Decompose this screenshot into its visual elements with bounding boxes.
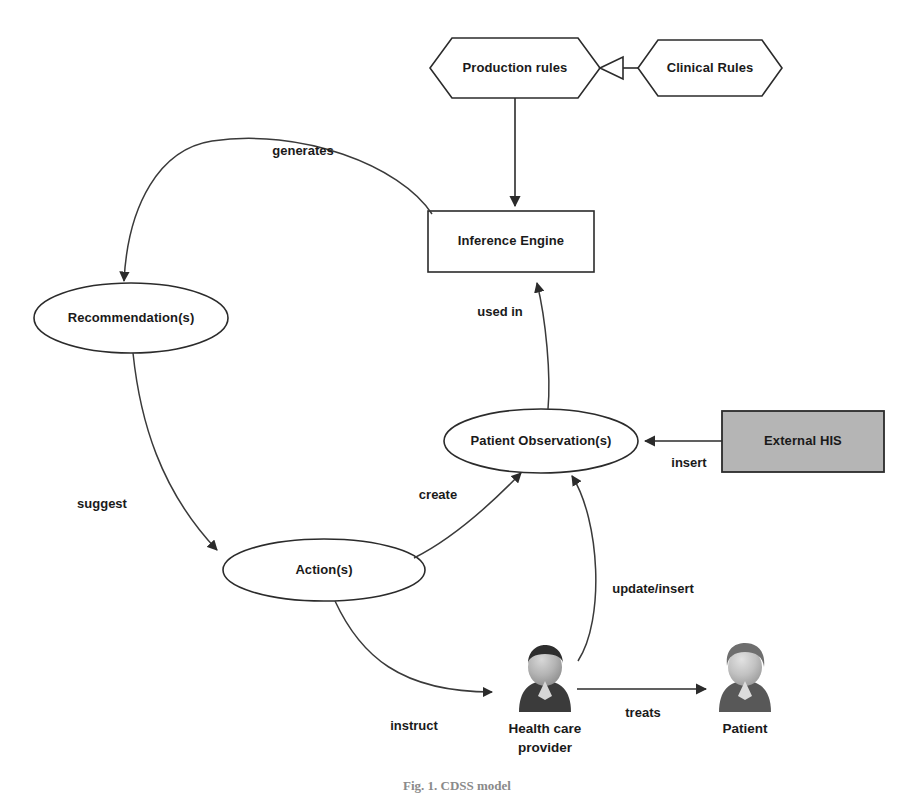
person-icon bbox=[719, 643, 771, 712]
edge-create: create bbox=[414, 473, 521, 558]
node-actions[interactable]: Action(s) bbox=[223, 539, 425, 601]
production-rules-label: Production rules bbox=[463, 60, 568, 75]
figure-caption: Fig. 1. CDSS model bbox=[403, 778, 511, 793]
generates-label: generates bbox=[272, 143, 333, 158]
update-insert-arrow bbox=[572, 476, 596, 661]
actions-label: Action(s) bbox=[295, 562, 352, 577]
clinical-rules-label: Clinical Rules bbox=[667, 60, 754, 75]
generalization-hollow-triangle-icon bbox=[600, 57, 623, 79]
inference-engine-label: Inference Engine bbox=[458, 233, 564, 248]
node-patient-observations[interactable]: Patient Observation(s) bbox=[444, 409, 638, 473]
create-arrow bbox=[414, 473, 521, 558]
generates-arrow bbox=[124, 138, 432, 281]
suggest-label: suggest bbox=[77, 496, 128, 511]
patient-label-line1: Patient bbox=[722, 721, 768, 736]
patient-observations-label: Patient Observation(s) bbox=[471, 433, 612, 448]
suggest-arrow bbox=[133, 353, 217, 550]
edge-insert: insert bbox=[645, 441, 722, 470]
recommendations-label: Recommendation(s) bbox=[68, 310, 195, 325]
edge-instruct: instruct bbox=[335, 601, 492, 733]
cdss-model-diagram: Production rules Clinical Rules Inferenc… bbox=[0, 0, 915, 794]
update-insert-label: update/insert bbox=[612, 581, 694, 596]
node-external-his[interactable]: External HIS bbox=[722, 411, 884, 472]
person-icon bbox=[519, 645, 571, 712]
treats-label: treats bbox=[625, 705, 660, 720]
instruct-arrow bbox=[335, 601, 492, 692]
actor-health-care-provider[interactable]: Health care provider bbox=[509, 645, 582, 755]
edge-treats: treats bbox=[577, 689, 706, 720]
instruct-label: instruct bbox=[390, 718, 438, 733]
health-care-provider-label-line2: provider bbox=[518, 740, 573, 755]
edge-generalization bbox=[600, 57, 638, 79]
external-his-label: External HIS bbox=[764, 433, 842, 448]
insert-label: insert bbox=[671, 455, 707, 470]
actor-patient[interactable]: Patient bbox=[719, 643, 771, 736]
used-in-arrow bbox=[537, 283, 549, 409]
used-in-label: used in bbox=[477, 304, 523, 319]
node-clinical-rules[interactable]: Clinical Rules bbox=[638, 40, 782, 96]
edge-update-insert: update/insert bbox=[572, 476, 694, 661]
node-recommendations[interactable]: Recommendation(s) bbox=[34, 283, 228, 353]
edge-suggest: suggest bbox=[77, 353, 217, 550]
create-label: create bbox=[419, 487, 457, 502]
health-care-provider-label-line1: Health care bbox=[509, 721, 582, 736]
node-production-rules[interactable]: Production rules bbox=[430, 38, 600, 98]
node-inference-engine[interactable]: Inference Engine bbox=[428, 211, 594, 272]
edge-used-in: used in bbox=[477, 283, 549, 409]
edge-generates: generates bbox=[124, 138, 432, 281]
